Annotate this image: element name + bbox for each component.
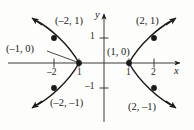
curve-right-branch-arrow-upper xyxy=(166,18,176,25)
axis-label-y: y xyxy=(95,10,100,21)
curve-right-branch-arrow-lower xyxy=(166,101,176,108)
tick-label-y-neg1: –1 xyxy=(85,82,95,92)
label-point-1-0: (1, 0) xyxy=(107,47,130,58)
label-point-2-neg1: (2, –1) xyxy=(128,102,156,113)
graph-figure: (–2, 1) (–1, 0) (–2, –1) (1, 0) (2, 1) (… xyxy=(0,0,194,130)
curve-left-branch-arrow-lower xyxy=(32,101,42,108)
axis-label-x: x xyxy=(174,66,179,77)
curve-left-branch-arrow-upper xyxy=(32,18,42,25)
label-point-neg2-neg1: (–2, –1) xyxy=(50,98,83,109)
label-point-neg1-0: (–1, 0) xyxy=(6,44,34,55)
tick-label-x-neg2: –2 xyxy=(47,68,57,78)
point-neg1-0 xyxy=(76,60,82,66)
label-point-neg2-1: (–2, 1) xyxy=(55,16,83,27)
point-2-1 xyxy=(151,35,157,41)
tick-label-y-pos1: 1 xyxy=(90,32,95,42)
point-2-neg1 xyxy=(151,85,157,91)
point-1-0 xyxy=(126,60,132,66)
label-point-2-1: (2, 1) xyxy=(136,16,159,27)
tick-label-x-pos1: 1 xyxy=(126,68,131,78)
point-neg2-1 xyxy=(51,35,57,41)
point-neg2-neg1 xyxy=(51,85,57,91)
tick-label-x-pos2: 2 xyxy=(151,68,156,78)
tick-label-x-neg1: 1 xyxy=(77,68,82,78)
